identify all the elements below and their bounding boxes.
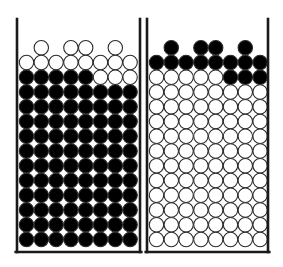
particle-open-r13-c3 — [179, 232, 193, 246]
particle-open-r6-c3 — [179, 129, 193, 143]
particle-open-r10-c2 — [164, 188, 178, 202]
particle-open-r10-c7 — [238, 188, 252, 202]
particle-open-r12-c3 — [179, 218, 193, 232]
particle-filled-r11-c1 — [19, 203, 33, 217]
particle-filled-r4-c5 — [79, 100, 93, 114]
particle-filled-r1-c4 — [194, 55, 208, 69]
particle-open-r11-c7 — [238, 203, 252, 217]
particle-open-r1-c4 — [64, 55, 78, 69]
particle-filled-r9-c8 — [123, 173, 137, 187]
particle-filled-r6-c1 — [19, 129, 33, 143]
particle-filled-r10-c5 — [79, 188, 93, 202]
particle-filled-r2-c4 — [64, 70, 78, 84]
particle-open-r8-c8 — [253, 159, 267, 173]
particle-open-r1-c1 — [19, 55, 33, 69]
particle-filled-toprow-col7 — [238, 41, 252, 55]
particle-open-r2-c5 — [209, 70, 223, 84]
particle-filled-r13-c4 — [64, 232, 78, 246]
particle-open-r7-c4 — [194, 144, 208, 158]
particle-open-r8-c4 — [194, 159, 208, 173]
particle-open-r4-c1 — [149, 100, 163, 114]
particle-filled-r7-c1 — [19, 144, 33, 158]
particle-filled-r10-c4 — [64, 188, 78, 202]
particle-filled-r12-c2 — [34, 218, 48, 232]
particle-filled-r2-c2 — [34, 70, 48, 84]
particle-open-r5-c5 — [209, 114, 223, 128]
particle-filled-r12-c8 — [123, 218, 137, 232]
particle-filled-r4-c2 — [34, 100, 48, 114]
particle-open-r7-c1 — [149, 144, 163, 158]
particle-filled-r5-c3 — [49, 114, 63, 128]
particle-open-r9-c8 — [253, 173, 267, 187]
particle-open-toprow-col5 — [79, 41, 93, 55]
particle-filled-r9-c2 — [34, 173, 48, 187]
particle-open-r7-c2 — [164, 144, 178, 158]
particle-open-r1-c8 — [123, 55, 137, 69]
particle-filled-r8-c6 — [93, 159, 107, 173]
particle-filled-r5-c6 — [93, 114, 107, 128]
particle-filled-r8-c3 — [49, 159, 63, 173]
particle-open-r12-c4 — [194, 218, 208, 232]
particle-open-r2-c3 — [179, 70, 193, 84]
particle-filled-r6-c5 — [79, 129, 93, 143]
particle-filled-r5-c4 — [64, 114, 78, 128]
particle-open-r3-c1 — [149, 85, 163, 99]
particle-open-r9-c2 — [164, 173, 178, 187]
particle-filled-r11-c6 — [93, 203, 107, 217]
particle-open-r12-c8 — [253, 218, 267, 232]
particle-open-r11-c1 — [149, 203, 163, 217]
particle-open-r5-c8 — [253, 114, 267, 128]
particle-filled-r8-c7 — [108, 159, 122, 173]
particle-open-r2-c6 — [93, 70, 107, 84]
particle-open-r9-c4 — [194, 173, 208, 187]
particle-open-r2-c8 — [123, 70, 137, 84]
particle-open-r9-c5 — [209, 173, 223, 187]
particle-open-r10-c5 — [209, 188, 223, 202]
particle-filled-r2-c1 — [19, 70, 33, 84]
particle-filled-r11-c3 — [49, 203, 63, 217]
particle-open-r13-c2 — [164, 232, 178, 246]
particle-filled-r2-c7 — [238, 70, 252, 84]
particle-filled-r6-c2 — [34, 129, 48, 143]
particle-filled-toprow-col4 — [194, 41, 208, 55]
particle-filled-r10-c2 — [34, 188, 48, 202]
particle-filled-r7-c3 — [49, 144, 63, 158]
particle-filled-r11-c4 — [64, 203, 78, 217]
particle-open-toprow-col2 — [34, 41, 48, 55]
particle-filled-r9-c5 — [79, 173, 93, 187]
particle-open-r9-c6 — [223, 173, 237, 187]
particle-open-r8-c2 — [164, 159, 178, 173]
particle-open-r10-c1 — [149, 188, 163, 202]
particle-open-r12-c1 — [149, 218, 163, 232]
particle-open-r3-c2 — [164, 85, 178, 99]
particle-filled-r7-c5 — [79, 144, 93, 158]
particle-filled-r12-c6 — [93, 218, 107, 232]
particle-filled-r13-c3 — [49, 232, 63, 246]
particle-filled-r1-c8 — [253, 55, 267, 69]
particle-filled-r6-c7 — [108, 129, 122, 143]
particle-open-r12-c7 — [238, 218, 252, 232]
particle-open-r4-c4 — [194, 100, 208, 114]
particle-filled-r6-c3 — [49, 129, 63, 143]
particle-filled-r3-c7 — [108, 85, 122, 99]
particle-filled-r4-c1 — [19, 100, 33, 114]
particle-open-r9-c3 — [179, 173, 193, 187]
particle-open-r13-c4 — [194, 232, 208, 246]
particle-filled-r2-c3 — [49, 70, 63, 84]
particle-filled-r2-c6 — [223, 70, 237, 84]
particle-open-r11-c3 — [179, 203, 193, 217]
particle-open-r1-c2 — [34, 55, 48, 69]
particle-open-r11-c6 — [223, 203, 237, 217]
particle-open-r1-c5 — [79, 55, 93, 69]
particle-filled-r8-c5 — [79, 159, 93, 173]
particle-open-r8-c7 — [238, 159, 252, 173]
particle-open-r13-c1 — [149, 232, 163, 246]
particle-open-r2-c4 — [194, 70, 208, 84]
particle-filled-r10-c7 — [108, 188, 122, 202]
particle-filled-r6-c8 — [123, 129, 137, 143]
particle-filled-r8-c1 — [19, 159, 33, 173]
diagram-stage — [0, 0, 283, 267]
particle-open-r3-c4 — [194, 85, 208, 99]
particle-filled-r12-c4 — [64, 218, 78, 232]
particle-open-r10-c6 — [223, 188, 237, 202]
